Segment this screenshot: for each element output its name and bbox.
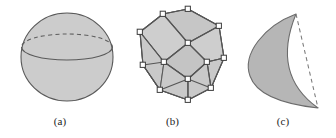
crescent-region (248, 14, 318, 108)
polyhedron-diagram (115, 0, 230, 112)
polyhedron-vertex (137, 29, 142, 34)
polyhedron-vertex (160, 11, 165, 16)
panel-caption-a: (a) (0, 115, 120, 127)
polyhedron-vertex (204, 59, 209, 64)
polyhedron-vertex (161, 59, 166, 64)
crescent-diagram (230, 0, 336, 112)
polyhedron-vertex (185, 40, 190, 45)
polyhedron-vertex (208, 85, 213, 90)
polyhedron-vertex (185, 76, 190, 81)
figure-panel-a: (a) (0, 0, 120, 138)
polyhedron-vertex (185, 6, 190, 11)
polyhedron-vertex (185, 97, 190, 102)
panel-caption-b: (b) (115, 115, 230, 127)
polyhedron-vertex (140, 62, 145, 67)
panel-caption-c: (c) (230, 115, 336, 127)
polyhedron-vertex (221, 55, 226, 60)
figure-panel-b: (b) (115, 0, 230, 138)
figure-plate: (a) (0, 0, 336, 138)
sphere-body (21, 13, 113, 101)
polyhedron-vertex (216, 23, 221, 28)
polyhedron-vertex (157, 87, 162, 92)
sphere-diagram (0, 0, 120, 112)
figure-panel-c: (c) (230, 0, 336, 138)
